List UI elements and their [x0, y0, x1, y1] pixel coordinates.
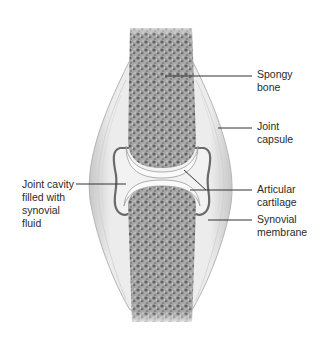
- label-articular-cartilage: Articular cartilage: [257, 183, 297, 209]
- top-bone-shape: [128, 28, 196, 168]
- bottom-bone-shape: [128, 186, 196, 322]
- label-synovial-membrane: Synovial membrane: [257, 213, 307, 239]
- label-spongy-bone: Spongy bone: [257, 68, 293, 94]
- synovial-joint-diagram: Spongy bone Joint capsule Articular cart…: [0, 0, 320, 338]
- label-joint-capsule: Joint capsule: [257, 120, 293, 146]
- label-joint-cavity: Joint cavity filled with synovial fluid: [22, 178, 74, 230]
- joint-illustration: [0, 0, 320, 338]
